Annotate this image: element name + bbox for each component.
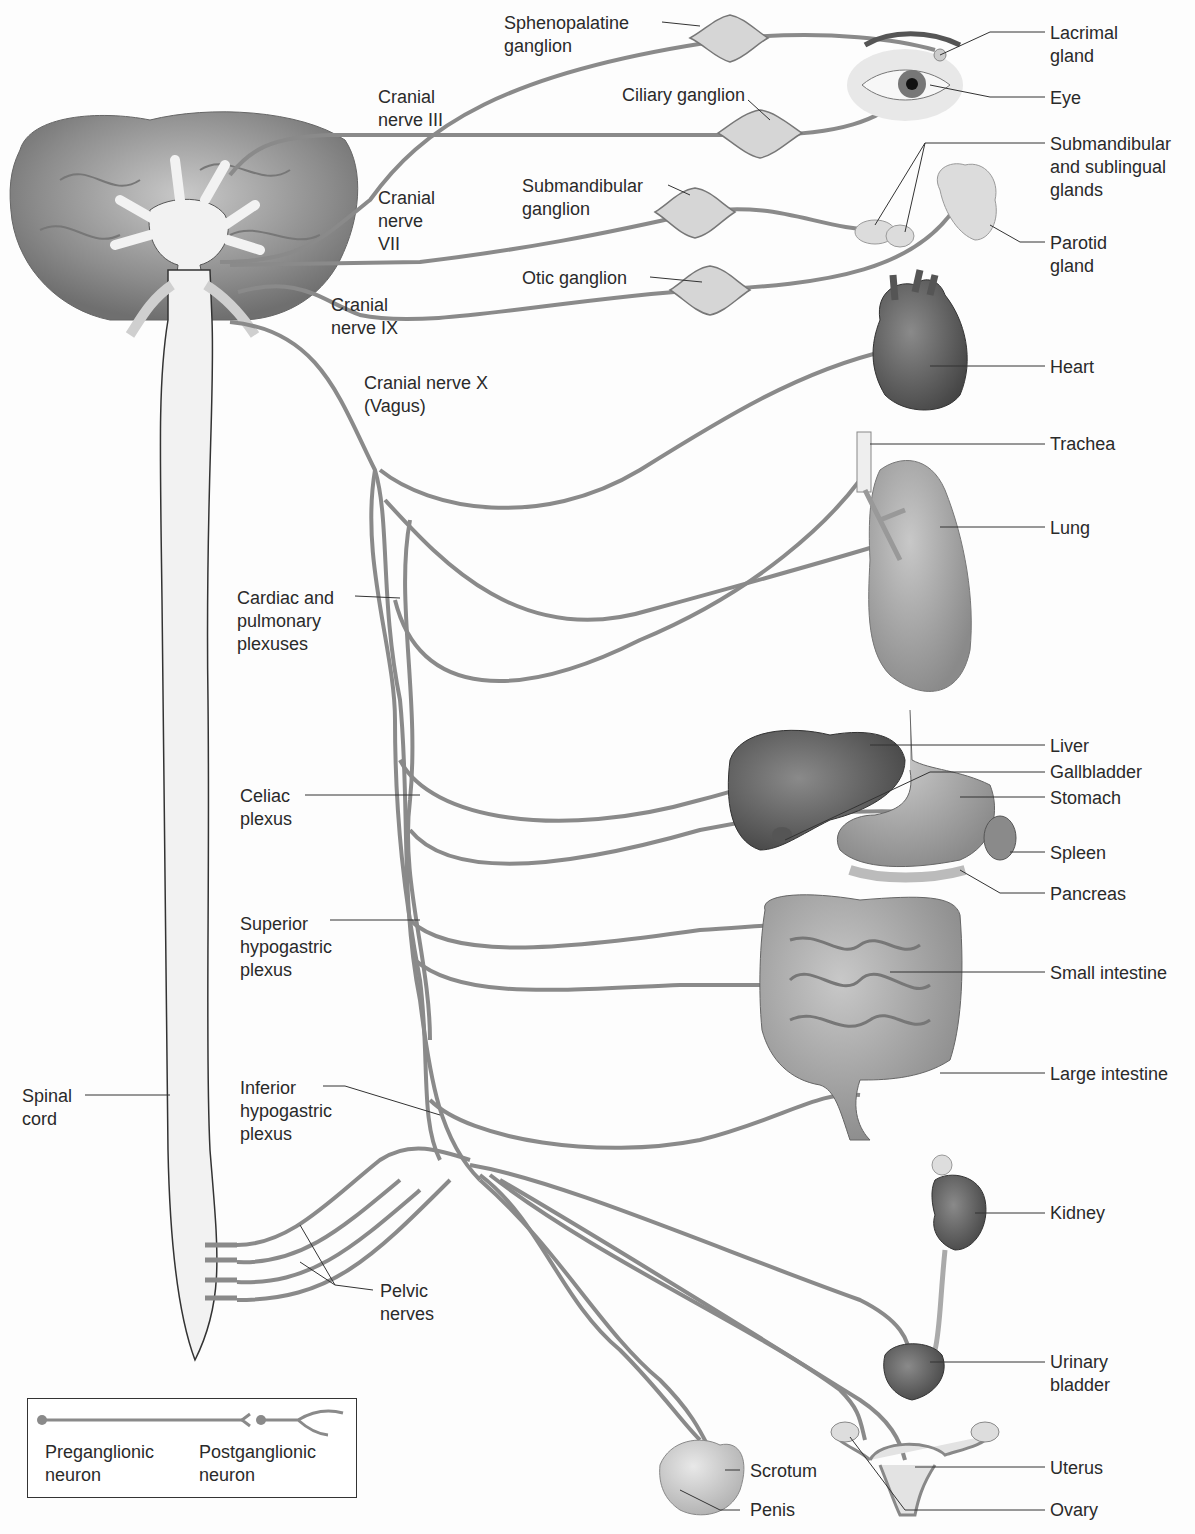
sphenopalatine-ganglion — [690, 15, 768, 62]
label-kidney: Kidney — [1050, 1202, 1105, 1225]
urinary-organs — [884, 1155, 986, 1400]
label-liver: Liver — [1050, 735, 1089, 758]
label-eye: Eye — [1050, 87, 1081, 110]
ganglia — [655, 15, 802, 315]
label-spinal-cord: Spinal cord — [22, 1085, 72, 1131]
label-urinary-bladder: Urinary bladder — [1050, 1351, 1110, 1397]
legend-neuron-icons — [28, 1399, 356, 1439]
reproductive-organs — [660, 1422, 999, 1515]
label-cardiac-pulmonary-plexuses: Cardiac and pulmonary plexuses — [237, 587, 334, 656]
label-spleen: Spleen — [1050, 842, 1106, 865]
label-submandibular-ganglion: Submandibular ganglion — [522, 175, 643, 221]
label-large-intestine: Large intestine — [1050, 1063, 1168, 1086]
otic-ganglion — [670, 266, 750, 315]
label-heart: Heart — [1050, 356, 1094, 379]
preganglionic-neuron-icon — [37, 1414, 250, 1426]
label-scrotum: Scrotum — [750, 1460, 817, 1483]
diagram-artwork — [0, 0, 1195, 1534]
label-lung: Lung — [1050, 517, 1090, 540]
label-parotid-gland: Parotid gland — [1050, 232, 1107, 278]
intestines — [760, 895, 962, 1140]
legend: Preganglionic neuron Postganglionic neur… — [27, 1398, 357, 1498]
label-trachea: Trachea — [1050, 433, 1115, 456]
legend-postganglionic-label: Postganglionic neuron — [199, 1441, 316, 1487]
lungs — [857, 432, 971, 691]
submandibular-ganglion — [655, 188, 735, 238]
label-penis: Penis — [750, 1499, 795, 1522]
label-stomach: Stomach — [1050, 787, 1121, 810]
label-submandibular-sublingual-glands: Submandibular and sublingual glands — [1050, 133, 1171, 202]
postganglionic-neuron-icon — [256, 1411, 343, 1435]
label-cranial-nerve-vii: Cranial nerve VII — [378, 187, 435, 256]
label-inferior-hypogastric-plexus: Inferior hypogastric plexus — [240, 1077, 332, 1146]
label-celiac-plexus: Celiac plexus — [240, 785, 292, 831]
label-sphenopalatine-ganglion: Sphenopalatine ganglion — [504, 12, 629, 58]
label-pancreas: Pancreas — [1050, 883, 1126, 906]
label-otic-ganglion: Otic ganglion — [522, 267, 627, 290]
label-ovary: Ovary — [1050, 1499, 1098, 1522]
spinal-cord — [130, 270, 255, 1360]
label-cranial-nerve-iii: Cranial nerve III — [378, 86, 443, 132]
label-small-intestine: Small intestine — [1050, 962, 1167, 985]
legend-preganglionic-label: Preganglionic neuron — [45, 1441, 154, 1487]
label-pelvic-nerves: Pelvic nerves — [380, 1280, 434, 1326]
label-ciliary-ganglion: Ciliary ganglion — [622, 84, 745, 107]
abdominal-organs — [728, 710, 1016, 878]
label-superior-hypogastric-plexus: Superior hypogastric plexus — [240, 913, 332, 982]
label-cranial-nerve-ix: Cranial nerve IX — [331, 294, 398, 340]
heart — [873, 270, 967, 410]
parasympathetic-diagram: Sphenopalatine ganglion Ciliary ganglion… — [0, 0, 1195, 1534]
label-cranial-nerve-x: Cranial nerve X (Vagus) — [364, 372, 488, 418]
salivary-glands — [855, 164, 996, 247]
label-gallbladder: Gallbladder — [1050, 761, 1142, 784]
ciliary-ganglion — [718, 110, 802, 158]
eye — [847, 34, 963, 121]
label-lacrimal-gland: Lacrimal gland — [1050, 22, 1118, 68]
label-uterus: Uterus — [1050, 1457, 1103, 1480]
